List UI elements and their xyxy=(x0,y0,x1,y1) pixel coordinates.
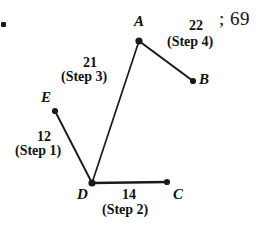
vertex-label-D: D xyxy=(77,187,88,202)
vertex-dot-D xyxy=(88,179,95,186)
vertex-label-C: C xyxy=(173,187,183,202)
edge-weight-step3: 21 xyxy=(83,56,97,70)
edge-step-caption-2: (Step 2) xyxy=(102,203,148,217)
vertex-label-E: E xyxy=(41,90,51,105)
vertex-dot-C xyxy=(164,179,170,185)
edge-step-caption-1: (Step 1) xyxy=(15,144,61,158)
vertex-label-A: A xyxy=(134,14,144,29)
edge-D-A xyxy=(92,41,139,183)
edge-step-caption-3: (Step 3) xyxy=(61,70,107,84)
vertex-dot-A xyxy=(135,37,142,44)
vertex-dot-E xyxy=(52,108,58,114)
vertex-label-B: B xyxy=(199,72,209,87)
trailing-text-fragment: ; 69 xyxy=(219,9,250,28)
edge-weight-step1: 12 xyxy=(37,130,51,144)
graph-figure: A B C D E 12 14 21 22 (Step 1) (Step 2) … xyxy=(0,0,256,230)
edge-step-caption-4: (Step 4) xyxy=(167,35,213,49)
edge-D-C xyxy=(92,182,167,183)
edge-weight-step2: 14 xyxy=(122,188,136,202)
vertex-dot-B xyxy=(190,78,196,84)
edge-weight-step4: 22 xyxy=(189,19,203,33)
